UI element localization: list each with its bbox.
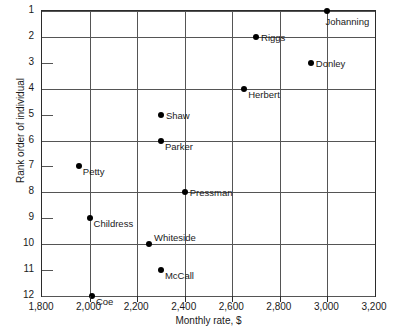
x-axis-tick-label: 2,800 <box>266 302 291 312</box>
data-point <box>182 189 188 195</box>
gridline-horizontal <box>42 244 375 245</box>
gridline-vertical <box>185 11 186 296</box>
data-point <box>253 34 259 40</box>
axis-tick-stub <box>42 115 53 116</box>
gridline-horizontal <box>42 141 375 142</box>
data-point <box>158 138 164 144</box>
data-point <box>146 241 152 247</box>
data-point-label: McCall <box>165 271 194 281</box>
x-axis-tick-label: 2,600 <box>219 302 244 312</box>
data-point <box>308 60 314 66</box>
data-point-label: Pressman <box>190 188 233 198</box>
x-axis-tick-labels: 1,8002,0002,2002,4002,6002,8003,0003,200 <box>41 300 376 312</box>
gridline-vertical <box>232 11 233 296</box>
y-axis-title: Rank order of individual <box>15 56 26 206</box>
data-point-label: Riggs <box>261 33 285 43</box>
data-point-label: Shaw <box>166 111 190 121</box>
y-axis-title-container: Rank order of individual <box>0 0 40 332</box>
gridline-horizontal <box>42 89 375 90</box>
scatter-chart: JohanningRiggsDonleyHerbertShawParkerPet… <box>0 0 396 332</box>
axis-tick-stub <box>42 63 53 64</box>
data-point-label: Whiteside <box>154 233 196 243</box>
x-axis-title: Monthly rate, $ <box>41 315 376 326</box>
data-point-label: Donley <box>316 59 346 69</box>
data-point-label: Johanning <box>325 17 369 27</box>
data-point-label: Herbert <box>248 90 280 100</box>
gridline-vertical <box>327 11 328 296</box>
gridline-vertical <box>137 11 138 296</box>
gridline-horizontal <box>42 37 375 38</box>
axis-tick-stub <box>42 270 53 271</box>
x-axis-tick-label: 3,000 <box>314 302 339 312</box>
axis-tick-stub <box>42 218 53 219</box>
axis-tick-stub <box>42 166 53 167</box>
data-point <box>87 215 93 221</box>
data-point <box>241 86 247 92</box>
x-axis-tick-label: 3,200 <box>361 302 386 312</box>
plot-area: JohanningRiggsDonleyHerbertShawParkerPet… <box>41 10 376 297</box>
x-axis-tick-label: 2,400 <box>171 302 196 312</box>
x-axis-tick-label: 2,000 <box>76 302 101 312</box>
data-point <box>324 8 330 14</box>
data-point <box>158 112 164 118</box>
data-point-label: Petty <box>83 167 105 177</box>
x-axis-tick-label: 2,200 <box>124 302 149 312</box>
data-point-label: Parker <box>165 142 193 152</box>
data-point <box>158 267 164 273</box>
data-point <box>76 163 82 169</box>
data-point-label: Childress <box>94 219 134 229</box>
gridline-vertical <box>90 11 91 296</box>
gridline-vertical <box>280 11 281 296</box>
